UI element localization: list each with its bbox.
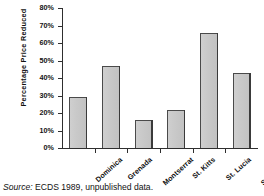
y-tick-label: 40% xyxy=(40,73,54,82)
x-tick-mark xyxy=(127,149,128,153)
y-tick-label: 60% xyxy=(40,38,54,47)
bar xyxy=(135,120,153,148)
bar xyxy=(233,73,251,148)
bar xyxy=(69,97,87,148)
y-tick-mark xyxy=(58,131,62,132)
y-tick-label: 30% xyxy=(40,91,54,100)
y-tick-label: 10% xyxy=(40,126,54,135)
y-tick-label: 50% xyxy=(40,56,54,65)
source-text: ECDS 1989, unpublished data. xyxy=(33,182,153,192)
x-category-label: Dominica xyxy=(94,155,125,184)
y-tick-mark xyxy=(58,61,62,62)
y-tick-mark xyxy=(58,96,62,97)
y-tick-mark xyxy=(58,113,62,114)
plot-area: 0%10%20%30%40%50%60%70%80% DominicaGrena… xyxy=(62,8,258,148)
figure: Percentage Price Reduced 0%10%20%30%40%5… xyxy=(0,0,264,196)
y-axis-line xyxy=(62,8,63,149)
y-tick-label: 20% xyxy=(40,108,54,117)
y-tick-label: 70% xyxy=(40,21,54,30)
x-category-label: St. Kitts xyxy=(191,155,218,180)
bar xyxy=(167,110,185,149)
source-caption: Source: ECDS 1989, unpublished data. xyxy=(3,182,153,192)
x-category-label: St. Vincent xyxy=(258,155,264,187)
y-tick-mark xyxy=(58,8,62,9)
y-tick-label: 0% xyxy=(44,143,54,152)
y-tick-label: 80% xyxy=(40,3,54,12)
x-category-label: Montserrat xyxy=(160,155,194,187)
y-tick-mark xyxy=(58,148,62,149)
x-tick-mark xyxy=(160,149,161,153)
x-tick-mark xyxy=(193,149,194,153)
y-tick-mark xyxy=(58,78,62,79)
x-category-label: St. Lucia xyxy=(224,155,253,182)
x-category-label: Grenada xyxy=(126,155,154,182)
x-tick-mark xyxy=(225,149,226,153)
y-axis-title: Percentage Price Reduced xyxy=(19,0,28,118)
source-label: Source: xyxy=(3,182,33,192)
y-tick-mark xyxy=(58,26,62,27)
x-tick-mark xyxy=(95,149,96,153)
bar xyxy=(200,33,218,149)
bar xyxy=(102,66,120,148)
y-tick-mark xyxy=(58,43,62,44)
